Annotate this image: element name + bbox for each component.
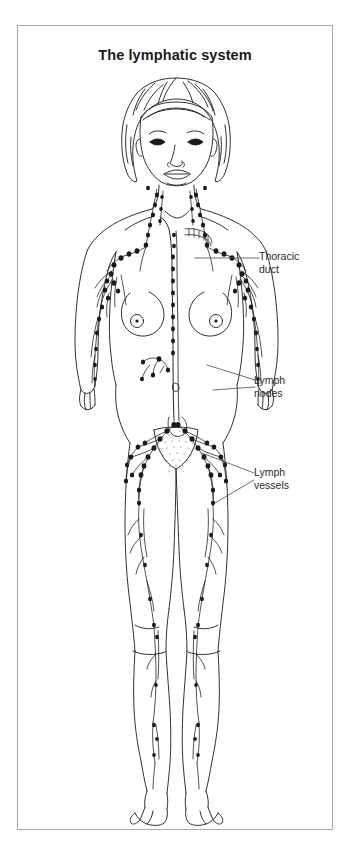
leader-lymph-nodes-a xyxy=(207,365,255,380)
lymph-node xyxy=(130,473,134,478)
lymph-node xyxy=(252,317,256,322)
nose xyxy=(170,145,182,166)
lymph-node xyxy=(136,444,141,449)
head-group xyxy=(122,78,231,186)
lymph-node xyxy=(137,488,141,493)
foot-right-crease xyxy=(200,811,206,824)
lymph-node xyxy=(171,291,175,296)
calf-left-outer xyxy=(134,651,147,791)
thoracic-duct-parallel xyxy=(176,231,179,421)
leg-right-inner xyxy=(176,469,184,609)
lymph-node xyxy=(146,186,150,191)
breast-right xyxy=(189,292,232,336)
calf-left-inner xyxy=(166,651,171,793)
lymph-vessel-thigh-right-b xyxy=(205,509,208,557)
lymph-vessel-branch xyxy=(130,537,141,553)
lymph-vessel-branch xyxy=(227,275,232,305)
lymph-node xyxy=(97,317,101,322)
hip-left xyxy=(116,385,130,443)
leader-lymph-vessels-a xyxy=(202,453,254,473)
lymph-node xyxy=(200,597,204,601)
lymph-node xyxy=(203,186,207,191)
knee-left-line xyxy=(133,651,165,655)
lymph-node xyxy=(175,422,180,428)
lymph-vessel-branch xyxy=(147,581,154,611)
leader-lymph-vessels-b xyxy=(215,480,254,503)
hip-right xyxy=(223,385,237,443)
lymph-node xyxy=(100,304,104,309)
lymph-vessel-ankle-left-b xyxy=(156,725,159,759)
lymph-node xyxy=(237,262,242,268)
hand-right-outline xyxy=(258,405,272,410)
lymph-node xyxy=(233,289,237,294)
finger-left-1 xyxy=(80,390,82,406)
lymph-node xyxy=(112,280,117,285)
lymph-vessel-thigh-left-b xyxy=(144,509,147,557)
calf-right-inner xyxy=(182,651,187,793)
lymph-node xyxy=(137,501,141,506)
leader-lymph-nodes-b xyxy=(213,387,255,390)
lymph-vessel-branch xyxy=(131,448,154,457)
lymph-node xyxy=(196,203,200,208)
knee-right-inner xyxy=(184,609,187,651)
pubic-stipple xyxy=(156,431,197,472)
callout-leaders xyxy=(195,258,259,503)
ankle-right xyxy=(206,791,208,807)
lymph-vessel-foot-right xyxy=(197,763,199,789)
nostril-left xyxy=(168,162,170,167)
lymph-node xyxy=(154,683,158,687)
lymph-node xyxy=(158,219,162,223)
lymph-node xyxy=(193,737,197,741)
lymph-node xyxy=(142,463,147,468)
lymph-node xyxy=(211,501,215,506)
lymph-node xyxy=(95,331,99,336)
callout-thoracic-duct: Thoracic duct xyxy=(259,250,299,275)
lymph-node xyxy=(129,454,134,459)
hand-left-outline xyxy=(81,405,95,410)
lymph-vessel-axillary-feed-right xyxy=(207,247,213,271)
lymph-node xyxy=(171,327,175,332)
lymph-vessel-branch xyxy=(213,519,224,535)
lymph-node xyxy=(196,753,200,757)
lymph-node xyxy=(237,280,242,285)
lymph-node xyxy=(151,373,155,378)
mouth-lower xyxy=(164,174,190,179)
lymph-vessel-branch xyxy=(211,537,222,553)
mouth-upper xyxy=(164,170,190,174)
lymph-node xyxy=(146,454,151,460)
lymph-node xyxy=(139,472,144,477)
lymph-node xyxy=(193,635,197,639)
eye-left xyxy=(150,139,165,145)
lymph-node xyxy=(146,233,150,238)
arm-left-outer xyxy=(75,251,87,390)
lymph-node xyxy=(211,488,215,493)
lymph-vessel-branch xyxy=(147,655,155,669)
ankle-left xyxy=(145,791,147,807)
lymph-node xyxy=(112,262,117,268)
knee-left-inner xyxy=(166,609,169,651)
lymph-node xyxy=(191,219,195,223)
lymph-node xyxy=(222,251,227,256)
lymph-node xyxy=(196,623,200,628)
lymph-node xyxy=(116,289,120,294)
lymph-node xyxy=(171,339,175,344)
lymph-node xyxy=(93,377,96,381)
lymph-node xyxy=(172,244,176,248)
eyebrow-right xyxy=(187,131,204,134)
lymphatic-system-figure: The lymphatic system xyxy=(0,0,351,862)
eyebrow-left xyxy=(149,131,166,134)
lymph-node xyxy=(143,440,148,445)
lymph-node xyxy=(124,479,128,484)
lymph-node xyxy=(171,255,175,260)
leg-left-inner xyxy=(169,469,176,609)
finger-left-2 xyxy=(84,393,86,410)
lymph-node xyxy=(198,213,202,218)
lymph-node xyxy=(143,563,147,567)
lymph-node xyxy=(140,377,144,382)
lymph-node xyxy=(254,331,258,336)
lymph-node xyxy=(152,723,156,727)
lymph-node xyxy=(201,223,205,228)
lymph-node xyxy=(205,242,210,247)
callout-lymph-nodes: Lymph nodes xyxy=(254,374,285,399)
lymph-node xyxy=(148,597,152,601)
